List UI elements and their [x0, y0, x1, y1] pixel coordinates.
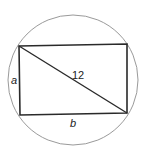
diagonal-label: 12 — [72, 69, 84, 81]
side-a-label: a — [11, 74, 17, 86]
diagram-canvas: 12 a b — [0, 0, 145, 150]
side-b-label: b — [70, 117, 76, 129]
